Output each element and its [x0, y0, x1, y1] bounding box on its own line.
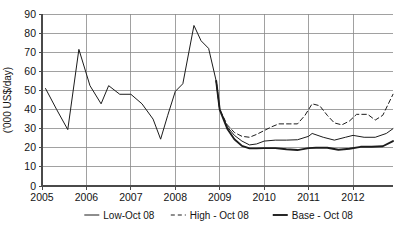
legend-label-base-oct-08: Base - Oct 08 [292, 210, 354, 221]
x-tick-label: 2012 [341, 191, 365, 203]
y-tick-label: 60 [24, 65, 36, 77]
legend-label-high-oct-08: High - Oct 08 [190, 210, 249, 221]
y-tick-label: 80 [24, 27, 36, 39]
chart-legend: Low-Oct 08High - Oct 08Base - Oct 08 [84, 210, 353, 221]
y-tick-label: 90 [24, 8, 36, 20]
x-tick-label: 2005 [30, 191, 54, 203]
line-chart: 0102030405060708090 20052006200720082009… [0, 0, 402, 232]
y-axis-title-text: ('000 US$/day) [2, 67, 13, 133]
x-tick-label: 2010 [252, 191, 276, 203]
y-tick-label: 70 [24, 46, 36, 58]
x-tick-label: 2009 [208, 191, 232, 203]
x-tick-label: 2007 [119, 191, 143, 203]
x-tick-label: 2011 [297, 191, 320, 203]
y-tick-label: 10 [24, 160, 36, 172]
y-tick-label: 30 [24, 122, 36, 134]
chart-canvas: 0102030405060708090 20052006200720082009… [0, 0, 402, 232]
legend-label-low-oct-08: Low-Oct 08 [103, 210, 155, 221]
y-axis-title: ('000 US$/day) [2, 67, 13, 133]
x-tick-label: 2006 [75, 191, 99, 203]
y-tick-label: 50 [24, 84, 36, 96]
y-tick-label: 40 [24, 103, 36, 115]
y-tick-label: 20 [24, 141, 36, 153]
x-tick-label: 2008 [164, 191, 188, 203]
